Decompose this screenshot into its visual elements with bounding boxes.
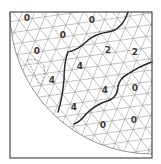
region-value-label: 4 bbox=[77, 61, 83, 71]
mesh-edge bbox=[108, 0, 161, 164]
region-value-label: 4 bbox=[102, 85, 108, 95]
mesh-edge bbox=[8, 0, 161, 164]
mesh-edge bbox=[0, 0, 87, 164]
region-value-label: 0 bbox=[100, 120, 106, 130]
mesh-edge bbox=[0, 0, 13, 164]
mesh-edge bbox=[0, 88, 161, 138]
quarter-circle-arc bbox=[10, 12, 152, 154]
region-value-label: 2 bbox=[132, 47, 138, 57]
mesh-edge bbox=[0, 155, 161, 164]
mesh-edge bbox=[0, 0, 126, 164]
region-value-label: 0 bbox=[34, 46, 40, 56]
mesh-edge bbox=[0, 0, 23, 164]
mesh-edge bbox=[0, 0, 161, 5]
mesh-edge bbox=[0, 0, 10, 164]
mesh-edge bbox=[0, 33, 161, 83]
region-value-label: 4 bbox=[49, 75, 55, 85]
region-value-label: 0 bbox=[60, 30, 66, 40]
mesh-diagram: 0000224444000 bbox=[0, 0, 161, 164]
frame bbox=[10, 12, 152, 158]
region-value-label: 0 bbox=[131, 115, 137, 125]
region-value-label: 4 bbox=[71, 102, 77, 112]
mesh-edge bbox=[0, 144, 161, 164]
region-value-label: 0 bbox=[132, 83, 138, 93]
mesh-edge bbox=[160, 0, 161, 164]
mesh-edge bbox=[0, 0, 52, 164]
region-value-label: 0 bbox=[89, 15, 95, 25]
region-value-label: 2 bbox=[105, 45, 111, 55]
mesh-edge bbox=[0, 0, 91, 164]
mesh-edge bbox=[0, 0, 39, 164]
triangular-mesh bbox=[0, 0, 161, 164]
mesh-diagram-svg: 0000224444000 bbox=[0, 0, 161, 164]
mesh-edge bbox=[0, 133, 161, 164]
mesh-edge bbox=[5, 0, 155, 164]
region-value-label: 0 bbox=[24, 13, 30, 23]
